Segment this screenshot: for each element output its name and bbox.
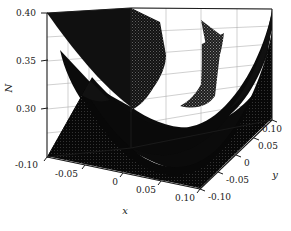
ytick-label: -0.05 — [226, 175, 249, 185]
xtick-label: -0.10 — [15, 160, 38, 170]
xtick-label: 0.05 — [136, 185, 156, 195]
ytick-mark — [200, 189, 205, 191]
surface-plot-3d: 0.30 0.35 0.40 -0.10 -0.05 0 0.05 0.10 -… — [0, 0, 291, 231]
ytick-label: 0.05 — [258, 141, 278, 151]
xtick-mark — [120, 173, 123, 177]
axis-title-y: y — [271, 169, 278, 180]
ytick-mark — [272, 120, 277, 122]
plot-canvas: 0.30 0.35 0.40 -0.10 -0.05 0 0.05 0.10 -… — [0, 0, 291, 231]
axis-title-z: N — [3, 82, 14, 93]
ytick-mark — [236, 155, 241, 157]
xtick-mark — [158, 181, 161, 185]
xtick-mark — [197, 189, 200, 193]
ytick-mark — [218, 172, 223, 174]
xtick-label: 0.10 — [175, 193, 195, 203]
ztick-label: 0.35 — [16, 56, 36, 66]
ytick-label: 0 — [244, 158, 250, 168]
ztick-label: 0.30 — [16, 104, 36, 114]
xtick-mark — [44, 157, 47, 161]
xtick-label: 0 — [112, 177, 118, 187]
ztick-label: 0.40 — [16, 8, 36, 18]
ytick-label: 0.10 — [262, 124, 282, 134]
xtick-mark — [82, 165, 85, 169]
ytick-label: -0.10 — [208, 192, 231, 202]
xtick-label: -0.05 — [55, 169, 78, 179]
ytick-mark — [254, 138, 259, 140]
axis-title-x: x — [122, 205, 128, 216]
